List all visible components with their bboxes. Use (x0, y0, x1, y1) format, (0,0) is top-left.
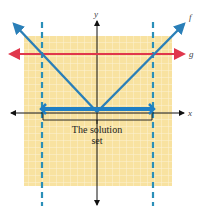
solution-caption-line2: set (91, 135, 102, 146)
solution-set-diagram: y x f g The solution set (0, 0, 201, 221)
y-axis-label: y (93, 9, 98, 19)
x-axis-label: x (187, 108, 192, 118)
f-label: f (189, 12, 193, 22)
solution-caption-line1: The solution (72, 124, 122, 135)
g-label: g (189, 49, 194, 59)
